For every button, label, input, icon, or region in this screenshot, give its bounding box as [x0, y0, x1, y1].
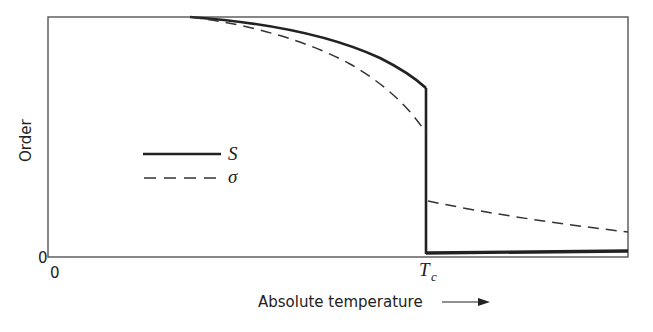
series-sigma-disordered [428, 201, 628, 232]
tc-label: T [419, 259, 431, 280]
series-s-ordered [190, 17, 426, 88]
tc-tick-label: T c [419, 259, 437, 284]
chart-canvas: S σ Order 0 0 T c Absolute temperature [0, 0, 653, 332]
x-axis-label: Absolute temperature [258, 293, 423, 311]
series-s-disordered [426, 251, 628, 253]
legend-label-s: S [228, 143, 238, 164]
legend: S σ [143, 143, 238, 187]
x-origin-label: 0 [50, 264, 60, 282]
legend-label-sigma: σ [228, 166, 238, 187]
y-axis-label: Order [17, 119, 35, 162]
y-origin-label: 0 [38, 249, 48, 267]
tc-subscript: c [431, 269, 437, 284]
arrow-right-icon [442, 298, 490, 306]
